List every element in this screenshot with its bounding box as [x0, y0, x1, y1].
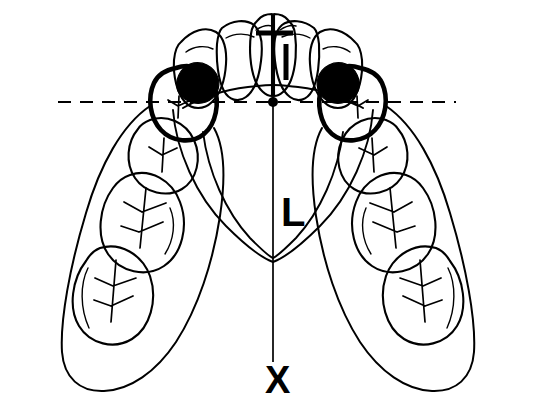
- upper-left-canine-ridge: [186, 47, 213, 52]
- right-premolar-lesion: [317, 63, 359, 104]
- midline-label-L: L: [281, 192, 305, 232]
- upper-left-second-molar-marginal-ridge: [82, 268, 89, 328]
- dental-arch-drawing: [0, 0, 536, 417]
- upper-left-second-premolar-fissure: [149, 138, 177, 172]
- dental-arch-figure: L X: [0, 0, 536, 417]
- terminus-label-X: X: [265, 361, 290, 399]
- upper-right-canine-ridge: [323, 47, 350, 52]
- upper-right-first-molar-marginal-ridge: [363, 208, 371, 254]
- left-premolar-lesion: [177, 63, 219, 104]
- upper-left-first-molar-marginal-ridge: [165, 208, 173, 254]
- right-arch-envelope: [313, 106, 475, 391]
- upper-right-first-molar-fissure: [370, 188, 415, 248]
- left-arch-envelope: [62, 106, 224, 391]
- upper-right-second-molar-marginal-ridge: [447, 268, 454, 328]
- arch-center-point: [268, 97, 278, 107]
- upper-left-first-molar-fissure: [121, 188, 166, 248]
